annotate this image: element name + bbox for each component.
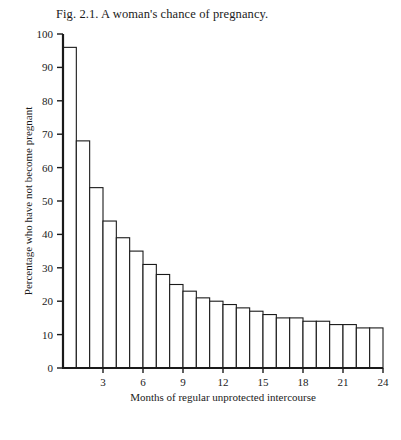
y-tick-label: 30 bbox=[42, 262, 54, 274]
y-tick-label: 20 bbox=[42, 295, 54, 307]
x-tick-label: 24 bbox=[378, 376, 390, 388]
x-tick-label: 21 bbox=[338, 376, 349, 388]
y-tick-label: 0 bbox=[48, 362, 54, 374]
x-tick-label: 18 bbox=[298, 376, 310, 388]
bar bbox=[303, 321, 316, 368]
bar bbox=[210, 301, 223, 368]
y-tick-label: 50 bbox=[42, 195, 54, 207]
bar-series bbox=[63, 47, 383, 368]
x-tick-label: 9 bbox=[180, 376, 186, 388]
bar bbox=[63, 47, 76, 368]
bar bbox=[343, 325, 356, 368]
y-tick-label: 60 bbox=[42, 162, 54, 174]
figure-container: Fig. 2.1. A woman's chance of pregnancy.… bbox=[0, 0, 401, 440]
y-tick-label: 10 bbox=[42, 329, 54, 341]
y-axis-ticks: 0102030405060708090100 bbox=[37, 28, 64, 374]
bar bbox=[103, 221, 116, 368]
bar bbox=[330, 325, 343, 368]
bar bbox=[76, 141, 89, 368]
bar bbox=[290, 318, 303, 368]
bar bbox=[90, 188, 103, 368]
x-tick-label: 12 bbox=[218, 376, 229, 388]
bar bbox=[316, 321, 329, 368]
y-tick-label: 40 bbox=[42, 228, 54, 240]
bar bbox=[156, 274, 169, 368]
bar bbox=[196, 298, 209, 368]
bar bbox=[183, 291, 196, 368]
bar bbox=[143, 264, 156, 368]
bar bbox=[223, 305, 236, 368]
x-tick-label: 15 bbox=[258, 376, 270, 388]
bar bbox=[130, 251, 143, 368]
y-tick-label: 70 bbox=[42, 128, 54, 140]
x-tick-label: 6 bbox=[140, 376, 146, 388]
chart-plot: 0102030405060708090100 3691215182124 Mon… bbox=[0, 0, 401, 440]
bar bbox=[356, 328, 369, 368]
bar bbox=[236, 308, 249, 368]
bar bbox=[276, 318, 289, 368]
bar bbox=[370, 328, 383, 368]
x-tick-label: 3 bbox=[100, 376, 106, 388]
y-axis-title: Percentage who have not become pregnant bbox=[22, 107, 34, 295]
bar bbox=[170, 285, 183, 369]
bar bbox=[116, 238, 129, 368]
x-axis-title: Months of regular unprotected intercours… bbox=[130, 391, 316, 403]
y-tick-label: 100 bbox=[37, 28, 54, 40]
y-tick-label: 90 bbox=[42, 61, 54, 73]
bar bbox=[263, 315, 276, 368]
bar bbox=[250, 311, 263, 368]
y-tick-label: 80 bbox=[42, 95, 54, 107]
x-axis-ticks: 3691215182124 bbox=[100, 368, 389, 388]
